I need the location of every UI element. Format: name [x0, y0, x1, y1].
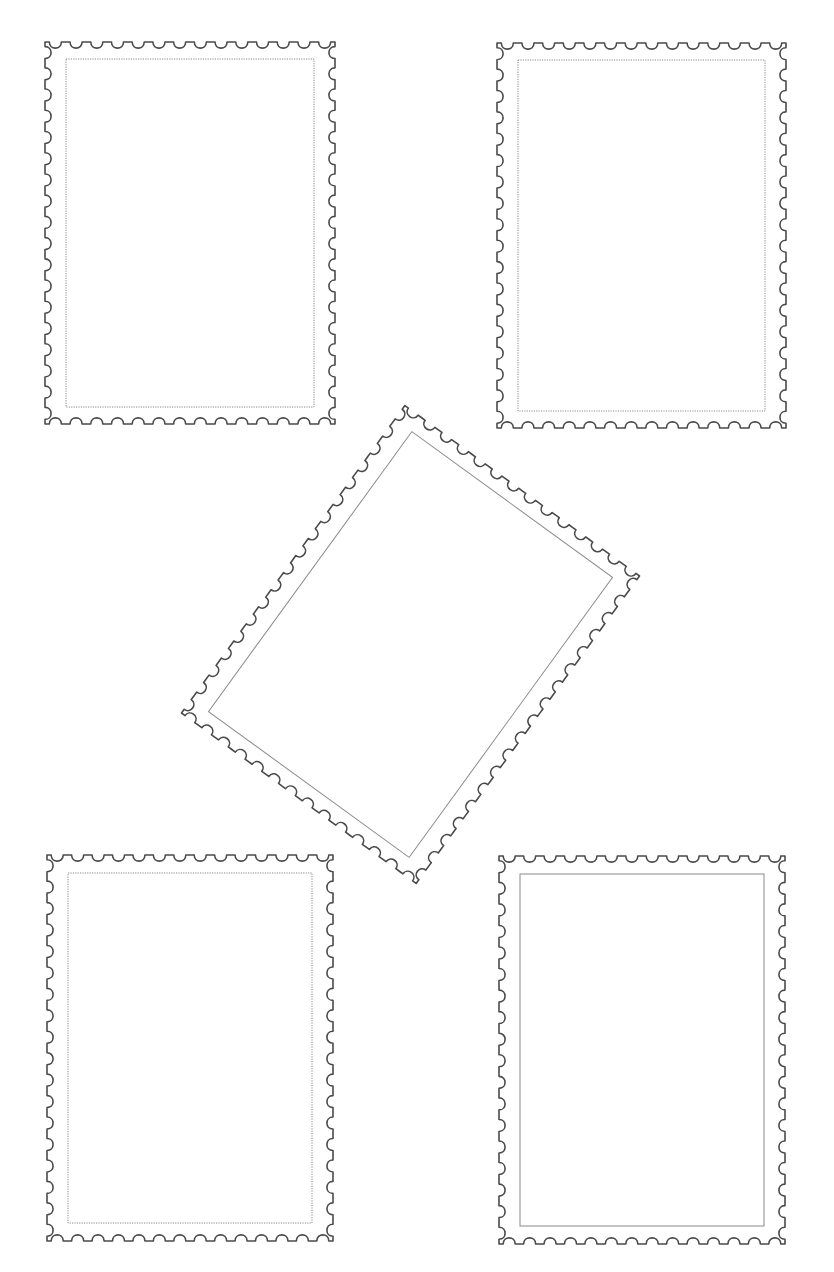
stamp-top-right: [497, 43, 786, 428]
perforated-border: [499, 856, 785, 1244]
stamp-template-canvas: [0, 0, 834, 1272]
stamp-bottom-left: [47, 855, 333, 1241]
perforated-border: [497, 43, 786, 428]
perforated-border: [182, 406, 640, 884]
stamp-center-rotated: [182, 406, 640, 884]
perforated-border: [47, 855, 333, 1241]
stamp-top-left: [45, 42, 335, 424]
perforated-border: [45, 42, 335, 424]
stamp-bottom-right: [499, 856, 785, 1244]
